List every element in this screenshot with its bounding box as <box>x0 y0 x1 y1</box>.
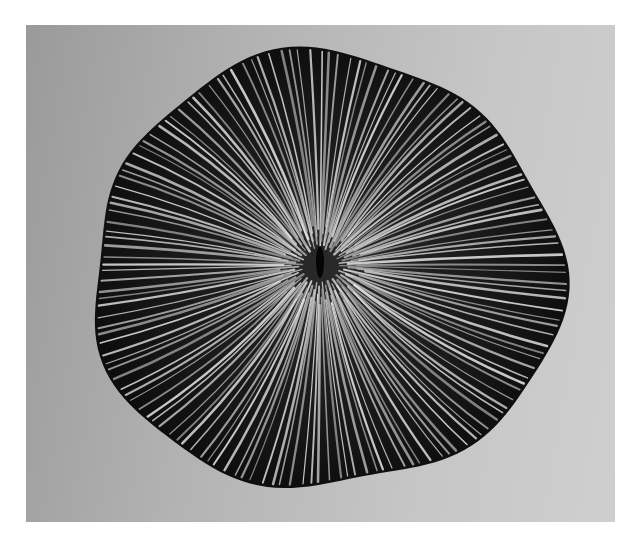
central-mouth-slit <box>316 246 324 278</box>
coral-photograph: mushroom coral skeleton (Fungia), top vi… <box>26 25 615 522</box>
mushroom-coral <box>26 25 615 522</box>
